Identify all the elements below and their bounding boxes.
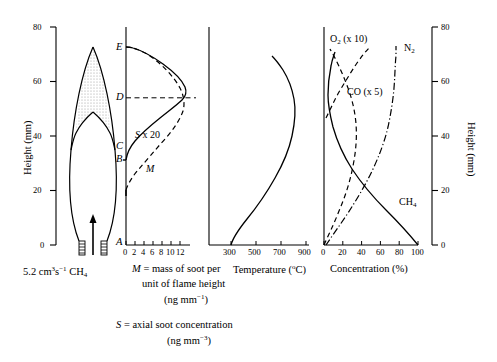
soot-tick-12: 12 (176, 247, 185, 257)
soot-tick-10: 10 (166, 247, 175, 257)
left-axis-title: Height (mm) (22, 120, 33, 175)
soot-tick-6: 6 (150, 247, 154, 257)
right-tick-80: 80 (441, 22, 450, 32)
curve-S-x20 (126, 47, 186, 160)
soot-tick-2: 2 (132, 247, 136, 257)
left-height-axis (50, 27, 56, 245)
left-tick-60: 60 (33, 76, 42, 86)
left-tick-40: 40 (33, 131, 42, 141)
curve-label-N2: N2 (404, 42, 415, 55)
soot-tick-0: 0 (123, 247, 127, 257)
temperature-axis-label: Temperature (oC) (233, 263, 306, 275)
soot-tick-8: 8 (159, 247, 163, 257)
conc-tick-60: 60 (376, 247, 385, 257)
curve-N2 (326, 46, 396, 245)
curve-CH4 (328, 52, 418, 245)
right-tick-0: 0 (441, 240, 445, 250)
marker-C: C (116, 140, 123, 151)
curve-label-CH4: CH4 (399, 196, 416, 209)
axial-soot-caption-line2: (ng mm−3) (167, 334, 211, 346)
marker-B: B (116, 153, 122, 164)
left-tick-80: 80 (33, 22, 42, 32)
right-axis-title: Height (mm) (466, 122, 477, 177)
conc-tick-20: 20 (338, 247, 347, 257)
temp-tick-500: 500 (248, 247, 261, 257)
concentration-panel (324, 27, 418, 245)
right-height-axis (432, 27, 438, 245)
right-tick-60: 60 (441, 76, 450, 86)
burner-flow-label: 5.2 cm3s−1 CH4 (23, 265, 87, 279)
flow-arrow (90, 214, 97, 255)
curve-label-S: S x 20 (135, 129, 160, 140)
luminous-soot-zone (76, 47, 110, 130)
marker-E: E (116, 41, 122, 52)
curve-label-O2: O2 (x 10) (330, 33, 367, 46)
flame-diagram (70, 47, 117, 255)
conc-tick-100: 100 (411, 247, 424, 257)
temp-tick-900: 900 (298, 247, 311, 257)
conc-tick-80: 80 (395, 247, 404, 257)
curve-label-M: M (146, 163, 154, 174)
axial-soot-caption-line1: S = axial soot concentration (116, 319, 233, 330)
conc-tick-40: 40 (357, 247, 366, 257)
right-tick-20: 20 (441, 185, 450, 195)
curve-label-CO: CO (x 5) (347, 86, 383, 97)
soot-definition-line1: M = mass of soot per (132, 263, 220, 274)
curve-temperature (231, 56, 295, 245)
temp-tick-700: 700 (273, 247, 286, 257)
soot-definition-line2: unit of flame height (142, 278, 225, 289)
temp-tick-300: 300 (223, 247, 236, 257)
marker-A: A (116, 236, 122, 247)
left-tick-20: 20 (33, 185, 42, 195)
left-tick-0: 0 (40, 240, 44, 250)
soot-tick-4: 4 (141, 247, 145, 257)
marker-D: D (116, 91, 124, 102)
conc-tick-0: 0 (321, 247, 325, 257)
temperature-panel (209, 27, 309, 245)
concentration-axis-label: Concentration (%) (330, 263, 408, 274)
flame-soot-figure (0, 0, 497, 362)
right-tick-40: 40 (441, 131, 450, 141)
soot-definition-line3: (ng mm−1) (164, 293, 208, 305)
curve-M (126, 47, 184, 190)
